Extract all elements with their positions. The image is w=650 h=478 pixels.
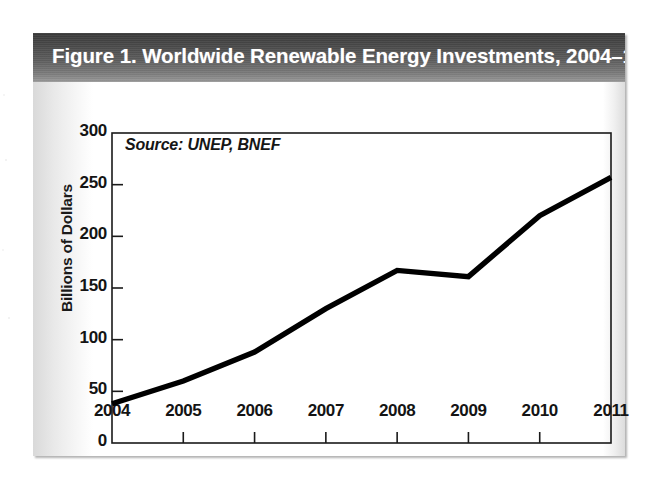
figure-card: Figure 1. Worldwide Renewable Energy Inv… bbox=[33, 33, 625, 456]
chart-canvas bbox=[33, 82, 625, 456]
figure-root: Figure 1. Worldwide Renewable Energy Inv… bbox=[0, 0, 650, 478]
figure-title-bar: Figure 1. Worldwide Renewable Energy Inv… bbox=[33, 33, 625, 82]
data-line-series bbox=[112, 177, 611, 403]
figure-title: Figure 1. Worldwide Renewable Energy Inv… bbox=[52, 44, 625, 68]
source-annotation: Source: UNEP, BNEF bbox=[125, 136, 280, 154]
axis-ticks bbox=[112, 185, 540, 443]
plot-area: Billions of Dollars 050100150200250300 2… bbox=[33, 82, 625, 456]
